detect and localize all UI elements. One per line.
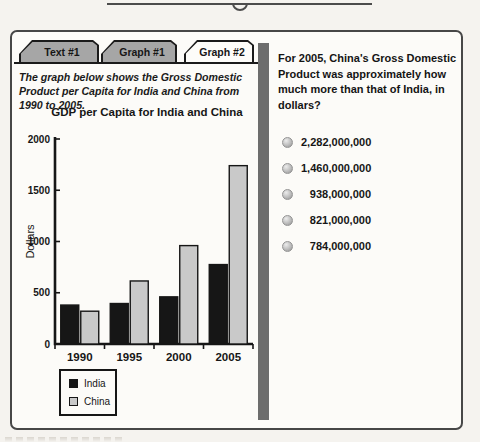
bar-india-2000 bbox=[160, 297, 178, 344]
tab-label: Text #1 bbox=[19, 40, 99, 64]
bar-china-1990 bbox=[81, 311, 99, 344]
bar-india-2005 bbox=[209, 265, 227, 344]
option-value: 2,282,000,000 bbox=[301, 136, 371, 148]
tab-label: Graph #2 bbox=[184, 40, 254, 64]
options-list: 2,282,000,0001,460,000,000938,000,000821… bbox=[278, 129, 462, 259]
option-row-1[interactable]: 2,282,000,000 bbox=[278, 129, 462, 155]
question-panel: For 2005, China's Gross Domestic Product… bbox=[278, 51, 462, 259]
x-tick-label: 1990 bbox=[67, 351, 93, 363]
legend-item-china: China bbox=[69, 396, 115, 407]
radio-button[interactable] bbox=[282, 241, 293, 252]
tab-bar: Text #1Graph #1Graph #2 bbox=[12, 32, 265, 65]
x-tick-label: 1995 bbox=[116, 351, 142, 363]
legend-item-india: India bbox=[69, 378, 115, 389]
bar-china-1995 bbox=[130, 281, 148, 344]
radio-button[interactable] bbox=[282, 163, 293, 174]
panel-divider-bar bbox=[258, 43, 269, 420]
option-row-5[interactable]: 784,000,000 bbox=[278, 233, 462, 259]
legend-swatch bbox=[69, 379, 78, 388]
option-value: 938,000,000 bbox=[301, 188, 371, 200]
radio-button[interactable] bbox=[282, 137, 293, 148]
tab-text-1[interactable]: Text #1 bbox=[19, 40, 99, 64]
y-tick-label: 1500 bbox=[28, 185, 51, 196]
tab-graph-2[interactable]: Graph #2 bbox=[184, 40, 254, 64]
x-tick-label: 2005 bbox=[215, 351, 241, 363]
y-tick-label: 0 bbox=[44, 339, 50, 350]
bar-china-2005 bbox=[229, 166, 247, 344]
y-axis-label: Dollars bbox=[24, 224, 36, 259]
legend-label: China bbox=[84, 396, 110, 407]
question-text: For 2005, China's Gross Domestic Product… bbox=[278, 51, 462, 113]
option-row-3[interactable]: 938,000,000 bbox=[278, 181, 462, 207]
option-value: 784,000,000 bbox=[301, 240, 371, 252]
tab-label: Graph #1 bbox=[101, 40, 177, 64]
legend-swatch bbox=[69, 397, 78, 406]
x-tick-label: 2000 bbox=[166, 351, 192, 363]
radio-button[interactable] bbox=[282, 189, 293, 200]
bar-india-1990 bbox=[61, 305, 79, 344]
page: { "tabs": [ { "label": "Text #1", "activ… bbox=[0, 0, 480, 442]
option-row-4[interactable]: 821,000,000 bbox=[278, 207, 462, 233]
option-row-2[interactable]: 1,460,000,000 bbox=[278, 155, 462, 181]
y-tick-label: 500 bbox=[33, 287, 50, 298]
chart-legend: IndiaChina bbox=[59, 369, 117, 416]
tab-graph-1[interactable]: Graph #1 bbox=[101, 40, 177, 64]
chart-title: GDP per Capita for India and China bbox=[32, 106, 262, 118]
legend-label: India bbox=[84, 378, 106, 389]
bar-china-2000 bbox=[180, 246, 198, 344]
gdp-bar-chart: 05001000150020001990199520002005Dollars bbox=[22, 122, 266, 374]
radio-button[interactable] bbox=[282, 215, 293, 226]
clipped-footer-text bbox=[5, 437, 125, 442]
bar-india-1995 bbox=[110, 304, 128, 344]
y-tick-label: 2000 bbox=[28, 134, 51, 145]
binder-ring-icon bbox=[230, 5, 252, 16]
option-value: 821,000,000 bbox=[301, 214, 371, 226]
workbook-panel: Text #1Graph #1Graph #2 The graph below … bbox=[10, 30, 463, 430]
option-value: 1,460,000,000 bbox=[301, 162, 371, 174]
